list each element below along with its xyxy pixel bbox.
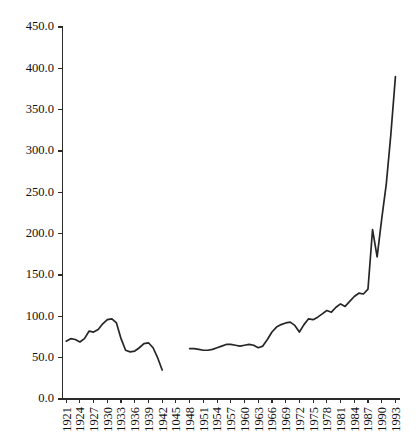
y-tick-label: 400.0: [26, 61, 54, 75]
x-tick-label: 1939: [142, 407, 156, 432]
y-tick-label: 100.0: [26, 309, 54, 323]
x-tick-label: 1978: [320, 407, 334, 432]
x-axis: 1921192419271930193319361939194210451948…: [60, 399, 403, 432]
x-tick-label: 1984: [348, 407, 362, 432]
x-tick-label: 1927: [87, 407, 101, 432]
line-chart: 0.050.0100.0150.0200.0250.0300.0350.0400…: [0, 0, 418, 443]
x-tick-label: 1942: [156, 407, 170, 432]
x-tick-label: 1960: [238, 407, 252, 432]
data-line: [190, 77, 396, 351]
chart-svg: 0.050.0100.0150.0200.0250.0300.0350.0400…: [0, 0, 418, 443]
x-tick-label: 1963: [252, 407, 266, 432]
data-series-group: [66, 77, 395, 370]
y-tick-label: 150.0: [26, 267, 54, 281]
x-tick-label: 1966: [265, 407, 279, 432]
x-tick-label: 1951: [197, 407, 211, 432]
y-tick-label: 450.0: [26, 19, 54, 33]
x-tick-label: 1954: [210, 407, 224, 432]
y-tick-label: 200.0: [26, 226, 54, 240]
x-tick-label: 1972: [293, 407, 307, 432]
x-tick-label: 1921: [60, 407, 74, 432]
x-tick-label: 1045: [169, 407, 183, 432]
y-tick-label: 300.0: [26, 143, 54, 157]
x-tick-label: 1981: [334, 407, 348, 432]
data-line: [66, 319, 162, 370]
x-tick-label: 1948: [183, 407, 197, 432]
x-tick-label: 1930: [101, 407, 115, 432]
x-tick-label: 1957: [224, 407, 238, 432]
y-tick-label: 350.0: [26, 102, 54, 116]
x-tick-label: 1969: [279, 407, 293, 432]
x-tick-label: 1993: [389, 407, 403, 432]
y-tick-label: 50.0: [32, 350, 54, 364]
y-tick-label: 0.0: [38, 391, 54, 405]
x-tick-label: 1933: [114, 407, 128, 432]
x-tick-label: 1975: [307, 407, 321, 432]
y-axis: 0.050.0100.0150.0200.0250.0300.0350.0400…: [26, 19, 63, 405]
x-tick-label: 1987: [361, 407, 375, 432]
y-tick-label: 250.0: [26, 185, 54, 199]
x-tick-label: 1990: [375, 407, 389, 432]
x-tick-label: 1924: [73, 407, 87, 432]
x-tick-label: 1936: [128, 407, 142, 432]
